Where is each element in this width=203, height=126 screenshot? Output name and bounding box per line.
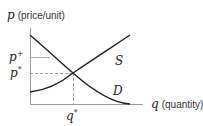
p-star-label: p* <box>10 65 22 80</box>
x-axis-label: q(quantity) <box>151 97 203 111</box>
supply-demand-diagram: p(price/unit) S D p+ p* q* q(quantity) <box>0 0 203 126</box>
p-plus-label: p+ <box>9 49 23 64</box>
demand-label: D <box>112 84 123 98</box>
y-axis-label: p(price/unit) <box>7 8 65 22</box>
q-star-label: q* <box>66 108 78 123</box>
supply-label: S <box>115 54 123 68</box>
